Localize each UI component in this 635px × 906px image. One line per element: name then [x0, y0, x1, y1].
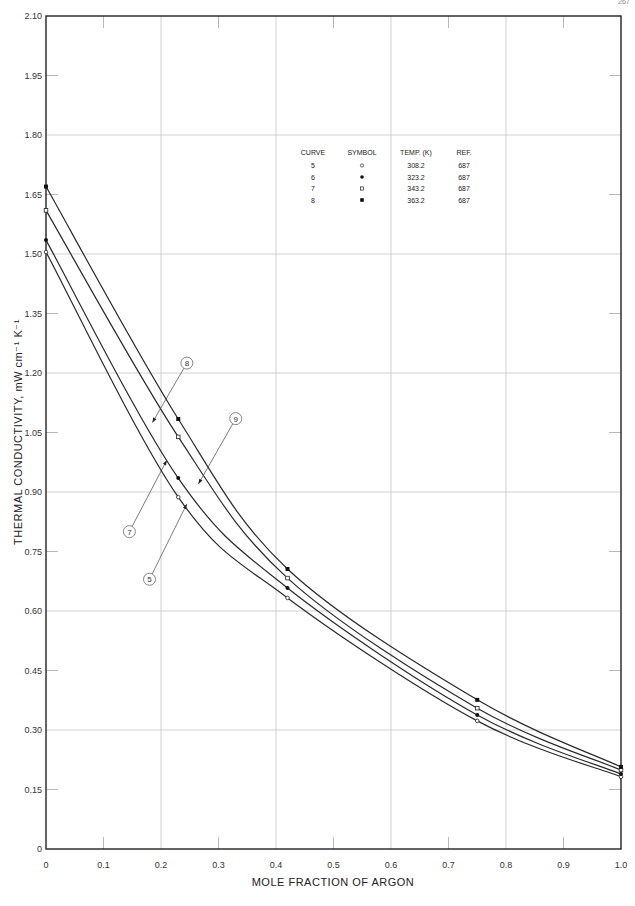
x-tick-label: 0.7 [442, 860, 455, 870]
y-tick-label: 1.05 [24, 428, 42, 438]
callout-label: 7 [127, 528, 132, 537]
y-tick-label: 0 [37, 844, 42, 854]
x-tick-label: 0.5 [327, 860, 340, 870]
x-tick-label: 0.2 [155, 860, 168, 870]
y-tick-label: 0.30 [24, 725, 42, 735]
legend-open-square-icon [360, 187, 363, 190]
data-markers [44, 185, 623, 779]
legend-ref: 687 [458, 162, 470, 169]
x-tick-label: 0.1 [97, 860, 110, 870]
filled-square-marker [475, 698, 479, 702]
filled-circle-marker [286, 586, 290, 590]
legend-header: SYMBOL [347, 149, 376, 156]
y-tick-label: 0.60 [24, 606, 42, 616]
callout-9: 9 [198, 413, 241, 484]
legend-curve: 7 [311, 185, 315, 192]
y-tick-label: 0.15 [24, 785, 42, 795]
legend-filled-circle-icon [360, 175, 364, 179]
open-square-marker [475, 706, 479, 710]
curve-line [46, 210, 621, 770]
legend-curve: 5 [311, 162, 315, 169]
x-tick-label: 0.9 [557, 860, 570, 870]
legend-temp: 323.2 [407, 174, 425, 181]
callout-8: 8 [152, 357, 193, 423]
page-number: 267 [618, 0, 630, 5]
y-axis-title: THERMAL CONDUCTIVITY, mW cm⁻¹ K⁻¹ [12, 319, 24, 545]
y-tick-label: 0.75 [24, 547, 42, 557]
open-circle-marker [475, 719, 479, 723]
grid-lines [46, 16, 621, 849]
x-axis-title: MOLE FRACTION OF ARGON [252, 876, 415, 888]
legend-temp: 363.2 [407, 197, 425, 204]
x-tick-label: 0.4 [270, 860, 283, 870]
open-square-marker [44, 209, 48, 213]
y-tick-label: 1.80 [24, 130, 42, 140]
curve-line [46, 240, 621, 774]
callout-7: 7 [123, 460, 166, 537]
thermal-conductivity-chart: 267 00.10.20.30.40.50.60.70.80.91.000.15… [0, 0, 635, 906]
legend-header: CURVE [301, 149, 326, 156]
y-tick-label: 1.95 [24, 71, 42, 81]
legend-header: TEMP. (K) [400, 149, 432, 157]
callout-label: 8 [185, 359, 190, 368]
y-tick-label: 1.35 [24, 309, 42, 319]
callout-5: 5 [144, 504, 187, 585]
legend: CURVESYMBOLTEMP. (K)REF.5308.26876323.26… [301, 149, 472, 204]
filled-square-marker [619, 765, 623, 769]
legend-ref: 687 [458, 185, 470, 192]
legend-ref: 687 [458, 197, 470, 204]
callout-label: 5 [147, 575, 152, 584]
filled-square-marker [44, 185, 48, 189]
curve-line [46, 252, 621, 777]
open-circle-marker [286, 596, 290, 600]
axes: 00.10.20.30.40.50.60.70.80.91.000.150.30… [24, 11, 627, 870]
legend-curve: 6 [311, 174, 315, 181]
filled-square-marker [286, 567, 290, 571]
y-tick-label: 1.50 [24, 249, 42, 259]
legend-curve: 8 [311, 197, 315, 204]
filled-square-marker [176, 417, 180, 421]
filled-circle-marker [176, 476, 180, 480]
y-tick-label: 0.45 [24, 666, 42, 676]
y-tick-label: 0.90 [24, 487, 42, 497]
legend-ref: 687 [458, 174, 470, 181]
open-circle-marker [176, 495, 180, 499]
legend-filled-square-icon [360, 198, 364, 202]
plot-frame [46, 16, 621, 849]
filled-circle-marker [475, 713, 479, 717]
x-tick-label: 0.8 [500, 860, 513, 870]
x-tick-label: 1.0 [615, 860, 628, 870]
filled-circle-marker [619, 772, 623, 776]
callout-label: 9 [234, 415, 239, 424]
curves [46, 187, 621, 777]
y-tick-label: 1.20 [24, 368, 42, 378]
legend-header: REF. [456, 149, 471, 156]
legend-temp: 343.2 [407, 185, 425, 192]
x-tick-label: 0 [43, 860, 48, 870]
curve-line [46, 187, 621, 767]
open-square-marker [176, 435, 180, 439]
x-tick-label: 0.3 [212, 860, 225, 870]
x-tick-label: 0.6 [385, 860, 398, 870]
open-circle-marker [44, 250, 48, 254]
y-tick-label: 2.10 [24, 11, 42, 21]
open-square-marker [286, 576, 290, 580]
y-tick-label: 1.65 [24, 190, 42, 200]
legend-temp: 308.2 [407, 162, 425, 169]
filled-circle-marker [44, 238, 48, 242]
legend-open-circle-icon [360, 164, 363, 167]
